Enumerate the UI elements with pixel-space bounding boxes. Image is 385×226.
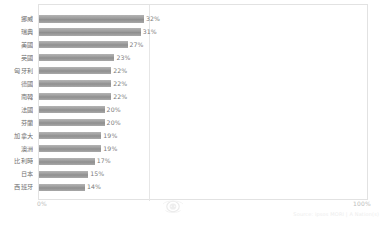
bar-fill [39, 93, 111, 100]
bar [39, 184, 85, 191]
bars-layer: 挪威32%瑞典31%美國27%英國23%匈牙利22%德國22%南韓22%法國20… [0, 0, 385, 226]
bar-row: 英國23% [0, 52, 385, 64]
bar-fill [39, 15, 144, 22]
bar-value-label: 31% [143, 26, 157, 38]
bar-value-label: 22% [113, 65, 127, 77]
bar-value-label: 22% [113, 91, 127, 103]
bar-row: 挪威32% [0, 13, 385, 25]
bar-fill [39, 41, 128, 48]
bar [39, 93, 111, 100]
bar-row: 瑞典31% [0, 26, 385, 38]
bar-row: 德國22% [0, 78, 385, 90]
bar-category-label: 日本 [0, 168, 33, 180]
bar-row: 芬蘭20% [0, 117, 385, 129]
axis-tick-max: 100% [353, 200, 371, 207]
bar-row: 澳洲19% [0, 143, 385, 155]
bar-category-label: 美國 [0, 39, 33, 51]
bar-fill [39, 106, 105, 113]
bar [39, 67, 111, 74]
axis-tick-min: 0% [37, 200, 47, 207]
bar-row: 加拿大19% [0, 130, 385, 142]
bar-row: 比利時17% [0, 155, 385, 167]
bar-category-label: 匈牙利 [0, 65, 33, 77]
bar-category-label: 德國 [0, 78, 33, 90]
bar [39, 54, 114, 61]
bar-value-label: 22% [113, 78, 127, 90]
bar-fill [39, 28, 141, 35]
bar [39, 15, 144, 22]
bar [39, 80, 111, 87]
bar-row: 匈牙利22% [0, 65, 385, 77]
bar-category-label: 加拿大 [0, 130, 33, 142]
bar-fill [39, 54, 114, 61]
bar-value-label: 19% [103, 143, 117, 155]
bar-fill [39, 80, 111, 87]
bar-category-label: 挪威 [0, 13, 33, 25]
bar-fill [39, 184, 85, 191]
bar-category-label: 比利時 [0, 155, 33, 167]
bar-category-label: 西班牙 [0, 181, 33, 193]
bar-value-label: 17% [97, 155, 111, 167]
bar-category-label: 英國 [0, 52, 33, 64]
bar [39, 28, 141, 35]
bar [39, 41, 128, 48]
bar [39, 106, 105, 113]
bar-row: 法國20% [0, 104, 385, 116]
bar-row: 美國27% [0, 39, 385, 51]
bar-value-label: 32% [146, 13, 160, 25]
bar [39, 132, 101, 139]
bar [39, 145, 101, 152]
bar-value-label: 20% [107, 117, 121, 129]
bar-value-label: 15% [90, 168, 104, 180]
source-note: Source: ipsos MORI | A Nation(s) [293, 211, 379, 217]
bar-category-label: 法國 [0, 104, 33, 116]
bar-row: 西班牙14% [0, 181, 385, 193]
bar-value-label: 19% [103, 130, 117, 142]
bar-category-label: 芬蘭 [0, 117, 33, 129]
bar-value-label: 20% [107, 104, 121, 116]
bar-row: 南韓22% [0, 91, 385, 103]
bar-value-label: 27% [130, 39, 144, 51]
bar-row: 日本15% [0, 168, 385, 180]
bar-fill [39, 158, 95, 165]
bar-category-label: 瑞典 [0, 26, 33, 38]
bar [39, 158, 95, 165]
emblem-watermark-icon [160, 198, 186, 214]
bar-fill [39, 171, 88, 178]
bar-value-label: 23% [116, 52, 130, 64]
bar-fill [39, 132, 101, 139]
bar-fill [39, 145, 101, 152]
bar-category-label: 澳洲 [0, 143, 33, 155]
bar-fill [39, 119, 105, 126]
bar-chart: 挪威32%瑞典31%美國27%英國23%匈牙利22%德國22%南韓22%法國20… [0, 0, 385, 226]
bar [39, 119, 105, 126]
bar-category-label: 南韓 [0, 91, 33, 103]
bar-value-label: 14% [87, 181, 101, 193]
bar [39, 171, 88, 178]
bar-fill [39, 67, 111, 74]
